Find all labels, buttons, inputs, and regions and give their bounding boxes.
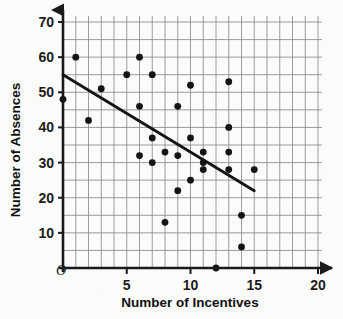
x-tick-label: 15 — [246, 277, 262, 293]
y-tick-label: 20 — [38, 190, 54, 206]
data-point — [213, 265, 220, 272]
x-tick-label: 10 — [183, 277, 199, 293]
data-point — [60, 96, 67, 103]
y-tick-label: 60 — [38, 49, 54, 65]
data-point — [225, 149, 232, 156]
y-tick-label: 10 — [38, 225, 54, 241]
x-tick-label: 5 — [123, 277, 131, 293]
grid-horizontal-minor — [63, 22, 322, 268]
x-axis-tick-labels: 5101520 — [123, 277, 326, 293]
data-point — [149, 159, 156, 166]
data-point — [200, 166, 207, 173]
data-point — [225, 124, 232, 131]
x-tick-label: 20 — [310, 277, 326, 293]
data-point — [174, 152, 181, 159]
data-point — [136, 54, 143, 61]
data-point — [251, 166, 258, 173]
data-point — [162, 219, 169, 226]
y-tick-label: 70 — [38, 14, 54, 30]
y-tick-label: 50 — [38, 84, 54, 100]
data-point — [149, 135, 156, 142]
data-point — [162, 149, 169, 156]
scatter-plot-page: 10203040506070 5101520 O Number of Incen… — [0, 0, 343, 319]
y-tick-label: 40 — [38, 119, 54, 135]
data-point — [123, 71, 130, 78]
data-point — [174, 103, 181, 110]
data-point — [225, 78, 232, 85]
data-point — [72, 54, 79, 61]
data-point — [98, 85, 105, 92]
data-point — [149, 71, 156, 78]
x-axis-title: Number of Incentives — [121, 295, 258, 310]
data-point — [238, 212, 245, 219]
data-point — [136, 152, 143, 159]
data-point — [225, 166, 232, 173]
grid-vertical-minor — [63, 16, 318, 268]
scatter-chart: 10203040506070 5101520 O Number of Incen… — [0, 0, 343, 319]
data-point — [187, 177, 194, 184]
data-point — [85, 117, 92, 124]
data-point — [187, 82, 194, 89]
y-axis-tick-labels: 10203040506070 — [38, 14, 54, 241]
data-point — [136, 103, 143, 110]
origin-label: O — [56, 263, 66, 278]
data-point — [174, 187, 181, 194]
y-tick-label: 30 — [38, 155, 54, 171]
data-point — [238, 244, 245, 251]
data-point — [187, 135, 194, 142]
data-point — [200, 159, 207, 166]
y-axis-title: Number of Absences — [8, 83, 23, 218]
data-point — [200, 149, 207, 156]
